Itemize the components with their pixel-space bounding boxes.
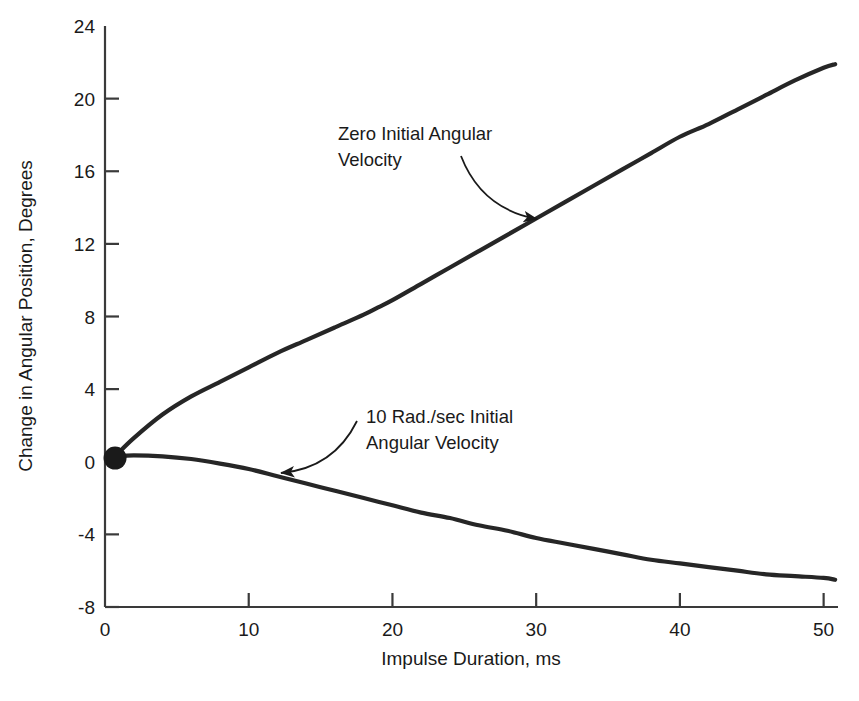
x-axis-ticks: [249, 593, 824, 607]
chart-plot-area: -8-404812162024 01020304050 Zero Initial…: [0, 0, 859, 701]
x-axis-tick-label: 50: [813, 619, 834, 640]
annotation-label-line: 10 Rad./sec Initial: [366, 406, 513, 427]
annotation-label-line: Zero Initial Angular: [338, 123, 492, 144]
y-axis-tick-label: -4: [78, 524, 95, 545]
annotation-arrow: [461, 156, 537, 219]
y-axis-tick-label: -8: [78, 597, 95, 618]
x-axis-tick-label: 0: [100, 619, 111, 640]
x-axis-tick-labels: 01020304050: [100, 619, 834, 640]
x-axis-title: Impulse Duration, ms: [381, 648, 561, 669]
y-axis-tick-label: 20: [74, 89, 95, 110]
y-axis-ticks: [105, 99, 119, 607]
y-axis-tick-label: 12: [74, 234, 95, 255]
annotation-label-line: Angular Velocity: [366, 432, 499, 453]
y-axis-tick-label: 4: [84, 379, 95, 400]
annotations-group: Zero Initial AngularVelocity10 Rad./sec …: [281, 123, 537, 473]
y-axis-tick-label: 16: [74, 161, 95, 182]
data-markers-group: [104, 447, 127, 470]
chart-figure: -8-404812162024 01020304050 Zero Initial…: [0, 0, 859, 701]
x-axis-tick-label: 30: [526, 619, 547, 640]
x-axis-tick-label: 10: [238, 619, 259, 640]
annotation-arrow: [281, 421, 357, 473]
origin-dot-marker: [104, 447, 127, 470]
y-axis-title: Change in Angular Position, Degrees: [15, 160, 36, 472]
x-axis-tick-label: 20: [382, 619, 403, 640]
annotation-zero-initial-angular-velocity: Zero Initial AngularVelocity: [338, 123, 537, 219]
x-axis-tick-label: 40: [669, 619, 690, 640]
y-axis-tick-labels: -8-404812162024: [74, 16, 96, 618]
y-axis-tick-label: 24: [74, 16, 96, 37]
y-axis-tick-label: 0: [84, 452, 95, 473]
data-series-line: [115, 455, 835, 579]
annotation-ten-rad-per-sec-initial-angular-velocity: 10 Rad./sec InitialAngular Velocity: [281, 406, 513, 473]
y-axis-tick-label: 8: [84, 307, 95, 328]
annotation-label-line: Velocity: [338, 149, 403, 170]
